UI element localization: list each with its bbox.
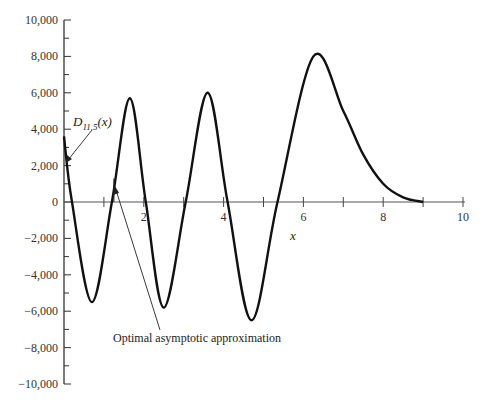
approx-label: Optimal asymptotic approximation (113, 331, 281, 345)
series-layer (64, 54, 423, 321)
y-tick-label: −6,000 (24, 304, 58, 318)
approx-label-annotation: Optimal asymptotic approximation (113, 186, 281, 345)
x-tick-label: 4 (221, 210, 227, 224)
x-tick-label: 8 (380, 210, 386, 224)
y-tick-label: 8,000 (31, 49, 58, 63)
curve-label: D11.5(x) (72, 114, 112, 132)
y-tick-label: 6,000 (31, 86, 58, 100)
curve-label-annotation: D11.5(x) (66, 114, 112, 163)
y-tick-label: −10,000 (18, 377, 58, 391)
x-tick-label: 10 (457, 210, 469, 224)
y-tick-label: 10,000 (25, 13, 58, 27)
x-tick-label: 2 (141, 210, 147, 224)
curve-label-arrow-line (68, 130, 92, 160)
y-tick-label: 0 (52, 195, 58, 209)
y-tick-label: −4,000 (24, 268, 58, 282)
d-function-curve (64, 54, 423, 321)
chart-canvas: −10,000−8,000−6,000−4,000−2,00002,0004,0… (0, 0, 486, 408)
y-tick-label: −8,000 (24, 341, 58, 355)
y-tick-label: 2,000 (31, 159, 58, 173)
y-axis: −10,000−8,000−6,000−4,000−2,00002,0004,0… (18, 13, 71, 391)
x-tick-label: 6 (300, 210, 306, 224)
y-tick-label: 4,000 (31, 122, 58, 136)
x-axis: 246810 (64, 197, 469, 224)
x-axis-label: x (289, 228, 296, 243)
y-tick-label: −2,000 (24, 231, 58, 245)
